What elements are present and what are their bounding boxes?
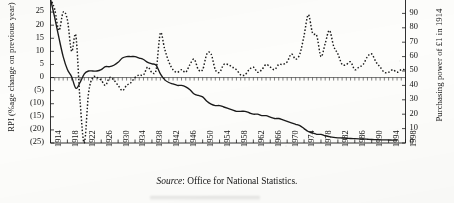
- series-rpi-change: [51, 0, 406, 143]
- axis-tick-marks: [51, 0, 406, 143]
- source-note: Source: Office for National Statistics.: [0, 176, 454, 186]
- chart-plot-area: [0, 0, 454, 203]
- source-note-prefix: Source: [157, 176, 183, 186]
- series-purchasing-power: [51, 0, 398, 140]
- data-series-layer: [51, 0, 406, 143]
- axis-spines: [51, 0, 406, 143]
- source-note-body: : Office for National Statistics.: [182, 176, 297, 186]
- figure-container: RPI (%age change on previous year) Purch…: [0, 0, 454, 203]
- page-cut-artifact: [150, 196, 260, 201]
